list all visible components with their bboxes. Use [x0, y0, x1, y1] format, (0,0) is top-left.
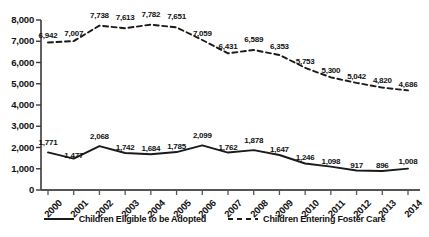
chart-legend: Children Eligible to be AdoptedChildren …	[0, 214, 429, 224]
legend-dashed-line-icon	[228, 215, 258, 223]
data-point-label: 2,068	[84, 133, 114, 141]
data-point-label: 7,007	[59, 30, 89, 38]
data-point-label: 1,771	[33, 139, 63, 147]
data-point-label: 1,008	[393, 158, 423, 166]
legend-item-1[interactable]: Children Eligible to be Adopted	[44, 214, 206, 224]
y-axis-tick-label: 6,000	[0, 58, 34, 68]
data-point-label: 6,431	[213, 43, 243, 51]
data-point-label: 2,099	[187, 132, 217, 140]
data-point-label: 4,686	[393, 81, 423, 89]
data-point-label: 7,651	[162, 13, 192, 21]
data-point-label: 5,753	[290, 58, 320, 66]
y-axis-tick-label: 0	[0, 185, 34, 195]
y-axis-tick-label: 2,000	[0, 143, 34, 153]
y-axis-tick-label: 3,000	[0, 121, 34, 131]
y-axis-tick-label: 1,000	[0, 164, 34, 174]
legend-label: Children Eligible to be Adopted	[79, 214, 206, 224]
legend-label: Children Entering Foster Care	[263, 214, 385, 224]
data-point-label: 7,059	[187, 30, 217, 38]
y-axis-tick-label: 7,000	[0, 36, 34, 46]
legend-solid-line-icon	[44, 215, 74, 223]
line-chart: 01,0002,0003,0004,0005,0006,0007,0008,00…	[0, 0, 429, 237]
y-axis-tick-label: 5,000	[0, 79, 34, 89]
data-point-label: 1,477	[59, 152, 89, 160]
y-axis-tick-label: 4,000	[0, 100, 34, 110]
data-point-label: 6,353	[264, 43, 294, 51]
legend-item-2[interactable]: Children Entering Foster Care	[228, 214, 385, 224]
data-point-label: 1,785	[162, 143, 192, 151]
data-point-label: 1,878	[239, 137, 269, 145]
y-axis-tick-label: 8,000	[0, 15, 34, 25]
